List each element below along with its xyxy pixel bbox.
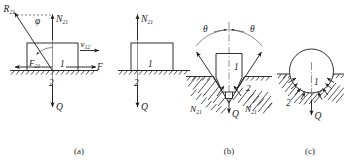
panel-a-phi-label: φ xyxy=(35,16,40,26)
panel-b-load-label: Q xyxy=(232,108,239,119)
panel-a-resultant-label: R21 xyxy=(3,3,16,15)
panel-b-theta-left-label: θ xyxy=(203,24,208,34)
panel-a-applied-force-label: F xyxy=(96,62,103,72)
panel-b-normal-right-label: N21 xyxy=(244,104,257,115)
panel-b-group: θ θ 1 2 N21 N21 Q xyxy=(186,22,272,119)
panel-c-group: 1 2 Q xyxy=(277,49,344,121)
panel-c-body-label: 1 xyxy=(314,77,319,87)
panel-a2-ground-hatch xyxy=(119,71,187,75)
panel-a2-normal-label: N21 xyxy=(140,13,153,25)
panel-a2-load-label: Q xyxy=(141,101,148,112)
panel-a-surface-label: 2 xyxy=(49,78,54,88)
caption-c: (c) xyxy=(305,146,315,156)
panel-a2-group: N21 1 2 Q xyxy=(118,13,190,113)
caption-b: (b) xyxy=(224,146,235,156)
panel-b-theta-arc-right-head xyxy=(232,29,245,31)
panel-a-load-label: Q xyxy=(56,101,63,112)
panel-c-load-label: Q xyxy=(315,110,322,121)
panel-c-seat-label: 2 xyxy=(286,98,291,108)
panel-b-theta-arc-left-head xyxy=(214,29,227,31)
panel-a-velocity-label: v12 xyxy=(81,39,91,50)
panel-a-group: R21 φ N21 F21 1 2 v12 F Q xyxy=(3,3,104,112)
panel-a2-body-label: 1 xyxy=(148,59,153,69)
figure-canvas: R21 φ N21 F21 1 2 v12 F Q xyxy=(0,0,344,167)
panel-a2-ground xyxy=(118,71,190,75)
panel-b-normal-left-label: N21 xyxy=(189,104,202,115)
physics-figure: R21 φ N21 F21 1 2 v12 F Q xyxy=(0,0,344,167)
panel-b-theta-right-label: θ xyxy=(250,24,255,34)
panel-a-normal-label: N21 xyxy=(55,13,68,25)
panel-b-body-label: 1 xyxy=(234,62,239,72)
panel-b-groove-label: 2 xyxy=(246,83,251,93)
panel-a-ground xyxy=(10,71,98,75)
panel-a2-surface-label: 2 xyxy=(134,78,139,88)
panel-a-body-label: 1 xyxy=(60,59,65,69)
caption-a: (a) xyxy=(74,146,84,156)
